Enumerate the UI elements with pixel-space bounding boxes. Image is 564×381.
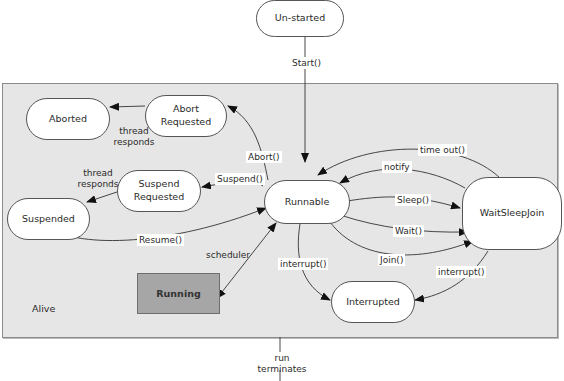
state-suspended: Suspended — [7, 198, 90, 240]
label-interrupt-runnable: interrupt() — [278, 258, 328, 270]
label-time-out: time out() — [418, 144, 467, 156]
state-running: Running — [137, 273, 220, 314]
label-start: Start() — [290, 57, 323, 69]
label-thread-responds-abort: thread responds — [110, 126, 158, 148]
label-scheduler: scheduler — [204, 250, 252, 261]
state-interrupted: Interrupted — [331, 281, 415, 323]
label-sleep: Sleep() — [395, 194, 431, 206]
state-label: WaitSleepJoin — [480, 207, 545, 220]
state-label: Un-started — [275, 12, 325, 25]
state-suspend-requested: Suspend Requested — [117, 170, 201, 212]
label-suspend: Suspend() — [215, 173, 265, 185]
state-label: Suspended — [22, 213, 75, 226]
state-unstarted: Un-started — [256, 0, 344, 37]
state-label: Abort Requested — [160, 103, 212, 129]
label-interrupt-wsj: interrupt() — [436, 266, 486, 278]
label-thread-responds-suspend: thread responds — [74, 168, 122, 190]
state-waitsleepjoin: WaitSleepJoin — [462, 177, 562, 250]
label-resume: Resume() — [137, 234, 184, 246]
state-label: Aborted — [49, 113, 87, 126]
label-run-terminates: run terminates — [255, 353, 309, 375]
state-label: Suspend Requested — [132, 178, 186, 204]
region-label-alive: Alive — [32, 303, 55, 314]
label-join: Join() — [378, 254, 405, 266]
label-abort: Abort() — [246, 151, 282, 163]
label-wait: Wait() — [393, 225, 424, 237]
state-label: Interrupted — [346, 296, 400, 309]
label-notify: notify — [382, 161, 412, 173]
state-runnable: Runnable — [264, 180, 350, 224]
state-aborted: Aborted — [26, 98, 110, 140]
state-label: Running — [156, 288, 200, 299]
state-label: Runnable — [285, 196, 330, 209]
